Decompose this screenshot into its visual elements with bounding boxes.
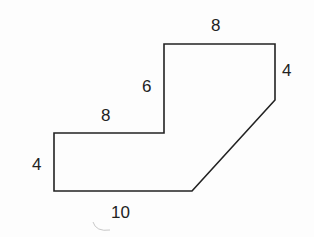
label-inner-vertical-side: 6 [142, 78, 151, 95]
label-middle-horizontal-side: 8 [101, 107, 110, 124]
label-top-side: 8 [211, 17, 220, 34]
label-bottom-side: 10 [111, 204, 130, 221]
shape-diagram: 8 4 6 8 4 10 [0, 0, 314, 237]
composite-polygon [54, 44, 275, 191]
scan-artifact-arc [93, 222, 110, 230]
label-right-side: 4 [282, 62, 291, 79]
diagram-canvas [0, 0, 314, 237]
label-left-side: 4 [32, 156, 41, 173]
